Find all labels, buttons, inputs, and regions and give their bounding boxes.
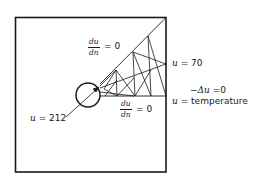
bottom-bc-numerator: du [120, 100, 132, 110]
bottom-bc-equals: = 0 [136, 105, 152, 114]
bottom-bc-denominator: dn [121, 110, 131, 119]
meaning-label: u = temperature [172, 97, 248, 106]
pde-rhs: =0 [213, 85, 226, 95]
meaning-text: temperature [191, 96, 248, 106]
top-bc-fraction: du dn [88, 38, 100, 56]
top-bc-numerator: du [88, 38, 100, 48]
meaning-var: u [172, 96, 178, 106]
inner-bc-label: u = 212 [30, 114, 66, 123]
outer-bc-value: = 70 [181, 58, 203, 68]
bottom-bc-fraction: du dn [120, 100, 132, 118]
outer-bc-label: u = 70 [172, 59, 203, 68]
pde-label: −Δu =0 [190, 86, 226, 95]
outer-bc-var: u [172, 58, 178, 68]
top-bc-denominator: dn [89, 48, 99, 57]
inner-bc-value: = 212 [39, 113, 67, 123]
meaning-equals: = [181, 96, 189, 106]
inner-bc-var: u [30, 113, 36, 123]
inner-bc-arrow [66, 87, 99, 117]
inner-circle-boundary [76, 83, 100, 107]
top-bc-equals: = 0 [104, 42, 120, 51]
pde-lhs: −Δu [190, 85, 210, 95]
